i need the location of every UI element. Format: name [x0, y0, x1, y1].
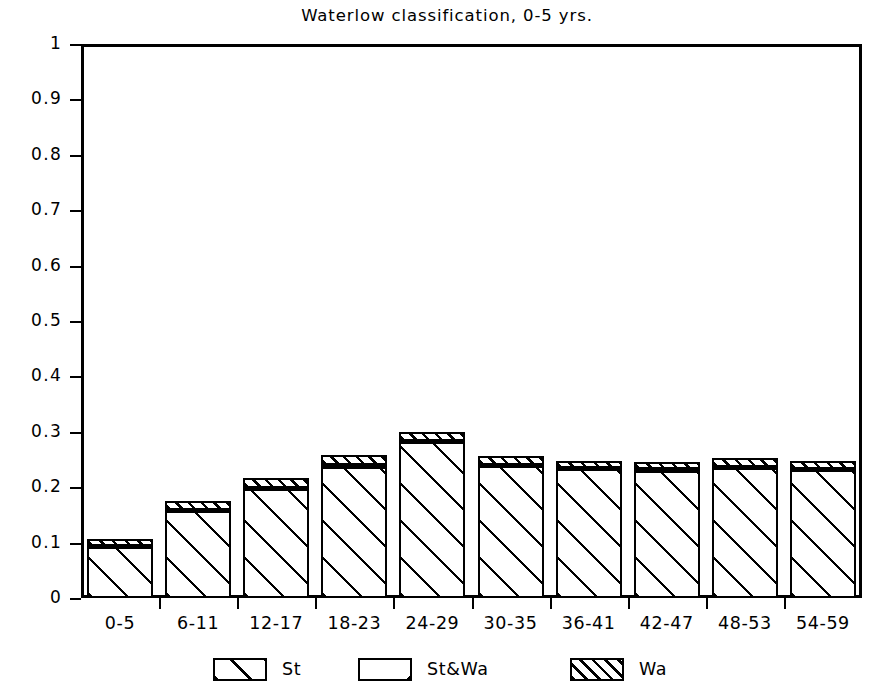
x-axis-tick-mark	[784, 598, 786, 609]
y-axis-tick-mark	[70, 99, 81, 101]
x-axis-tick-label: 48-53	[718, 613, 772, 633]
x-axis-tick-label: 42-47	[640, 613, 694, 633]
x-axis-tick-label: 12-17	[249, 613, 303, 633]
x-axis-tick-mark	[706, 598, 708, 609]
bar[interactable]	[712, 458, 778, 598]
y-axis-tick-mark	[70, 210, 81, 212]
x-axis-tick-mark	[393, 598, 395, 609]
bar-segment-wa	[790, 461, 856, 469]
bar-segment-wa	[634, 462, 700, 470]
chart-title: Waterlow classification, 0-5 yrs.	[0, 6, 894, 25]
y-axis-tick-label: 0.3	[31, 423, 62, 440]
y-axis-tick-mark	[70, 432, 81, 434]
bar-segment-wa	[478, 456, 544, 464]
x-axis-tick-mark	[550, 598, 552, 609]
legend-swatch-icon	[358, 658, 412, 681]
bar[interactable]	[165, 501, 231, 599]
bar-segment-st	[712, 468, 778, 598]
bar-segment-wa	[321, 455, 387, 465]
x-axis-tick-mark	[159, 598, 161, 609]
legend-item-wa[interactable]: Wa	[570, 653, 667, 685]
y-axis-tick-label: 0.6	[31, 257, 62, 274]
bar[interactable]	[243, 478, 309, 598]
x-axis-tick-mark	[628, 598, 630, 609]
x-axis-tick-mark	[315, 598, 317, 609]
x-axis-tick-label: 36-41	[562, 613, 616, 633]
x-axis-tick-label: 6-11	[177, 613, 219, 633]
y-axis: 00.10.20.30.40.50.60.70.80.91	[0, 0, 62, 698]
y-axis-tick-mark	[70, 266, 81, 268]
x-axis-tick-mark	[237, 598, 239, 609]
x-axis-tick-label: 0-5	[105, 613, 135, 633]
legend-label: St	[282, 659, 301, 679]
bar-segment-st	[478, 466, 544, 598]
x-axis-tick-label: 54-59	[796, 613, 850, 633]
bar[interactable]	[634, 462, 700, 598]
legend-swatch-icon	[213, 658, 267, 681]
bar-segment-wa	[243, 478, 309, 489]
bar-segment-st	[321, 467, 387, 598]
y-axis-tick-label: 0	[50, 589, 62, 606]
y-axis-tick-mark	[70, 376, 81, 378]
y-axis-tick-mark	[70, 598, 81, 600]
y-axis-tick-label: 0.4	[31, 367, 62, 384]
legend-swatch-icon	[570, 658, 624, 681]
bar-segment-wa	[399, 432, 465, 441]
legend-item-st-wa[interactable]: St&Wa	[358, 653, 489, 685]
bar-segment-st	[790, 470, 856, 598]
x-axis-tick-label: 24-29	[406, 613, 460, 633]
y-axis-tick-label: 0.1	[31, 534, 62, 551]
y-axis-tick-label: 0.2	[31, 478, 62, 495]
x-axis-tick-label: 18-23	[327, 613, 381, 633]
bar[interactable]	[321, 455, 387, 598]
bar-segment-st	[634, 471, 700, 598]
x-axis-tick-label: 30-35	[484, 613, 538, 633]
y-axis-tick-mark	[70, 321, 81, 323]
bar[interactable]	[399, 432, 465, 598]
y-axis-tick-label: 0.7	[31, 201, 62, 218]
y-axis-tick-label: 0.8	[31, 146, 62, 163]
bar-segment-wa	[556, 461, 622, 469]
y-axis-tick-label: 0.9	[31, 90, 62, 107]
y-axis-tick-label: 0.5	[31, 312, 62, 329]
bar[interactable]	[478, 456, 544, 598]
legend-label: Wa	[639, 659, 667, 679]
x-axis-tick-mark	[472, 598, 474, 609]
bar-segment-st	[243, 489, 309, 598]
y-axis-tick-label: 1	[50, 35, 62, 52]
legend-label: St&Wa	[427, 659, 489, 679]
bar-segment-st	[165, 511, 231, 598]
y-axis-tick-mark	[70, 155, 81, 157]
chart-legend: StSt&WaWa	[0, 653, 894, 693]
bar-segment-wa	[87, 539, 153, 546]
bar[interactable]	[87, 539, 153, 598]
bar-segment-st	[87, 547, 153, 598]
bar-segment-st	[399, 442, 465, 598]
bar-segment-wa	[712, 458, 778, 466]
y-axis-tick-mark	[70, 487, 81, 489]
chart-figure: Waterlow classification, 0-5 yrs. 00.10.…	[0, 0, 894, 698]
y-axis-tick-mark	[70, 543, 81, 545]
bar[interactable]	[790, 461, 856, 598]
bar[interactable]	[556, 461, 622, 598]
bar-segment-st	[556, 469, 622, 598]
bar-segment-wa	[165, 501, 231, 510]
legend-item-st[interactable]: St	[213, 653, 301, 685]
y-axis-tick-mark	[70, 44, 81, 46]
